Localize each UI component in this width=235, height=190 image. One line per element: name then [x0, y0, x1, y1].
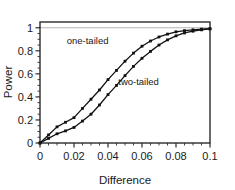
data-point-marker-two-tailed — [90, 113, 93, 116]
data-point-marker-one-tailed — [158, 36, 161, 39]
data-point-marker-two-tailed — [209, 28, 212, 31]
data-point-marker-one-tailed — [115, 69, 118, 72]
x-axis-tick-label: 0.02 — [63, 150, 84, 162]
data-point-marker-two-tailed — [158, 44, 161, 47]
data-point-marker-one-tailed — [175, 30, 178, 33]
y-axis-tick-label: 0.2 — [18, 114, 33, 126]
data-point-marker-one-tailed — [149, 40, 152, 43]
x-axis-tick-label: 0 — [37, 150, 43, 162]
data-point-marker-two-tailed — [73, 126, 76, 129]
x-axis-tick-label: 0.1 — [202, 150, 217, 162]
y-axis-tick-label: 0.4 — [18, 91, 33, 103]
data-point-marker-two-tailed — [149, 50, 152, 53]
x-axis-title: Difference — [99, 174, 151, 186]
data-point-marker-two-tailed — [132, 65, 135, 68]
data-point-marker-one-tailed — [81, 107, 84, 110]
data-point-marker-one-tailed — [107, 78, 110, 81]
data-point-marker-one-tailed — [141, 45, 144, 48]
y-axis-tick-labels: 00.20.40.60.81 — [18, 22, 33, 149]
data-point-marker-two-tailed — [141, 57, 144, 60]
data-point-marker-two-tailed — [39, 142, 42, 145]
x-axis-tick-label: 0.06 — [131, 150, 152, 162]
data-point-marker-two-tailed — [192, 30, 195, 33]
y-axis-tick-label: 0.8 — [18, 45, 33, 57]
data-point-marker-one-tailed — [64, 121, 67, 124]
data-point-marker-two-tailed — [64, 130, 67, 133]
data-point-marker-one-tailed — [166, 33, 169, 36]
series-annotation-one-tailed: one-tailed — [67, 35, 109, 46]
data-point-marker-one-tailed — [47, 134, 50, 137]
data-point-marker-two-tailed — [175, 34, 178, 37]
data-point-marker-one-tailed — [73, 116, 76, 119]
data-point-marker-one-tailed — [56, 125, 59, 128]
data-point-marker-one-tailed — [98, 89, 101, 92]
data-point-marker-one-tailed — [90, 98, 93, 101]
data-point-marker-two-tailed — [47, 137, 50, 140]
x-axis-tick-label: 0.04 — [97, 150, 118, 162]
x-axis-tick-label: 0.08 — [165, 150, 186, 162]
data-point-marker-two-tailed — [200, 28, 203, 31]
x-axis-tick-labels: 00.020.040.060.080.1 — [37, 150, 218, 162]
chart-canvas: 00.020.040.060.080.1 00.20.40.60.81 one-… — [0, 0, 235, 190]
data-point-marker-two-tailed — [56, 132, 59, 135]
data-point-marker-two-tailed — [98, 104, 101, 107]
y-axis-tick-label: 1 — [27, 22, 33, 34]
data-point-marker-one-tailed — [124, 60, 127, 63]
power-curve-figure: 00.020.040.060.080.1 00.20.40.60.81 one-… — [0, 0, 235, 190]
y-axis-tick-label: 0.6 — [18, 68, 33, 80]
data-point-marker-two-tailed — [107, 93, 110, 96]
data-point-marker-one-tailed — [132, 52, 135, 55]
data-point-marker-two-tailed — [183, 32, 186, 35]
data-point-marker-two-tailed — [166, 38, 169, 41]
y-axis-tick-label: 0 — [27, 137, 33, 149]
series-annotation-two-tailed: two-tailed — [118, 76, 159, 87]
data-point-marker-two-tailed — [81, 120, 84, 123]
y-axis-title: Power — [2, 66, 14, 99]
